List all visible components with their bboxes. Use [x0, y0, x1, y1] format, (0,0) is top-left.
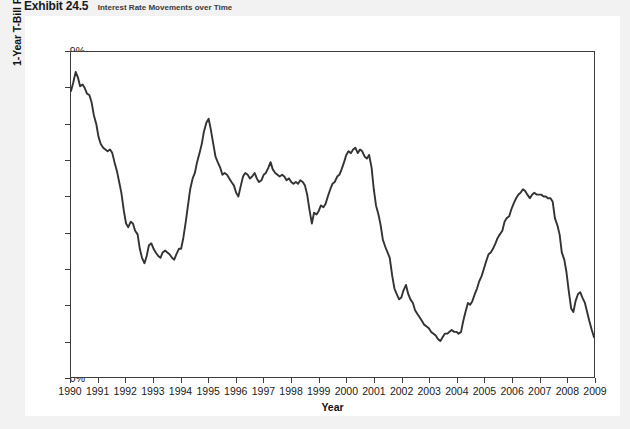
x-axis-tick-mark: [319, 378, 320, 383]
y-axis-title: 1-Year T-Bill Rate: [11, 0, 23, 124]
x-axis-tick-mark: [208, 378, 209, 383]
x-axis-tick-mark: [540, 378, 541, 383]
x-axis-tick-mark: [70, 378, 71, 383]
x-axis-tick-mark: [236, 378, 237, 383]
x-axis-tick-mark: [457, 378, 458, 383]
x-axis-tick-mark: [567, 378, 568, 383]
x-axis-tick-mark: [263, 378, 264, 383]
exhibit-header: Exhibit 24.5 Interest Rate Movements ove…: [24, 0, 232, 10]
x-axis-title: Year: [70, 401, 595, 413]
exhibit-caption: Interest Rate Movements over Time: [98, 3, 233, 10]
x-axis: 1990199119921993199419951996199719981999…: [25, 16, 620, 416]
x-axis-tick-mark: [374, 378, 375, 383]
x-axis-tick-mark: [291, 378, 292, 383]
x-axis-tick-label: 2009: [575, 385, 615, 397]
x-axis-tick-mark: [595, 378, 596, 383]
x-axis-tick-mark: [181, 378, 182, 383]
exhibit-number: Exhibit 24.5: [24, 0, 88, 10]
chart-panel: 1-Year T-Bill Rate 0%1%2%3%4%5%6%7%8%9% …: [25, 16, 620, 416]
x-axis-tick-mark: [153, 378, 154, 383]
x-axis-tick-mark: [512, 378, 513, 383]
x-axis-tick-mark: [429, 378, 430, 383]
x-axis-tick-mark: [98, 378, 99, 383]
x-axis-tick-mark: [125, 378, 126, 383]
x-axis-tick-mark: [484, 378, 485, 383]
x-axis-tick-mark: [402, 378, 403, 383]
x-axis-tick-mark: [346, 378, 347, 383]
